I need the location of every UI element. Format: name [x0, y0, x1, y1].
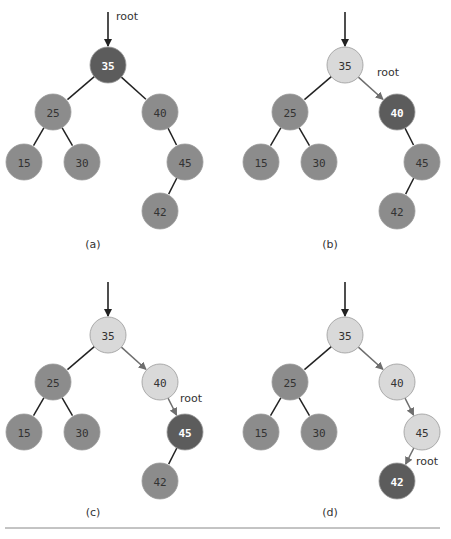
node-15: 15 — [6, 414, 42, 450]
node-15: 15 — [6, 144, 42, 180]
node-40: 40 — [142, 364, 178, 400]
node-35: 35 — [327, 47, 363, 83]
node-label: 42 — [390, 206, 403, 219]
node-40: 40 — [379, 364, 415, 400]
edge-25-30 — [62, 128, 72, 146]
edge-25-15 — [271, 128, 281, 146]
node-30: 30 — [64, 144, 100, 180]
node-label: 25 — [46, 107, 59, 120]
node-label: 25 — [283, 377, 296, 390]
node-45: 45 — [167, 144, 203, 180]
node-30: 30 — [64, 414, 100, 450]
node-label: 45 — [415, 157, 428, 170]
node-label: 15 — [17, 427, 30, 440]
node-35: 35 — [90, 47, 126, 83]
panel-caption: (b) — [322, 238, 338, 251]
edge-25-30 — [299, 398, 309, 416]
panel-caption: (d) — [322, 506, 338, 519]
node-label: 25 — [46, 377, 59, 390]
node-label: 40 — [153, 377, 166, 390]
node-15: 15 — [243, 414, 279, 450]
edge-25-15 — [34, 128, 44, 146]
node-label: 45 — [178, 157, 191, 170]
edge-40-45 — [405, 398, 413, 415]
edge-35-25 — [67, 347, 94, 370]
edge-45-42 — [169, 178, 177, 194]
edge-40-45 — [405, 128, 413, 145]
node-15: 15 — [243, 144, 279, 180]
panel-caption: (c) — [86, 506, 101, 519]
node-42: 42 — [142, 463, 178, 499]
edge-25-30 — [299, 128, 309, 146]
edge-40-45 — [168, 128, 176, 145]
node-label: 42 — [153, 476, 166, 489]
root-pointer-label: root — [116, 10, 139, 23]
edge-45-42 — [406, 178, 414, 194]
node-label: 30 — [312, 427, 325, 440]
edge-35-25 — [304, 347, 331, 370]
edge-35-40 — [121, 347, 146, 369]
root-pointer-label: root — [180, 392, 203, 405]
node-label: 30 — [75, 427, 88, 440]
node-label: 30 — [312, 157, 325, 170]
edge-35-40 — [358, 347, 383, 369]
node-42: 42 — [379, 463, 415, 499]
panel-c: 35254015304542root(c) — [6, 282, 203, 519]
node-label: 35 — [338, 60, 351, 73]
node-label: 45 — [178, 427, 191, 440]
root-pointer-label: root — [416, 455, 439, 468]
edge-35-25 — [304, 77, 331, 100]
node-label: 40 — [390, 107, 403, 120]
panel-a: 35254015304542root(a) — [6, 10, 203, 251]
node-label: 30 — [75, 157, 88, 170]
node-45: 45 — [404, 144, 440, 180]
node-label: 35 — [101, 330, 114, 343]
node-label: 40 — [390, 377, 403, 390]
panel-caption: (a) — [85, 238, 100, 251]
bst-diagram: 35254015304542root(a)35254015304542root(… — [0, 0, 451, 539]
edge-45-42 — [169, 448, 177, 464]
node-30: 30 — [301, 414, 337, 450]
node-40: 40 — [379, 94, 415, 130]
node-label: 42 — [390, 476, 403, 489]
node-label: 15 — [254, 427, 267, 440]
node-25: 25 — [35, 94, 71, 130]
node-42: 42 — [379, 193, 415, 229]
node-42: 42 — [142, 193, 178, 229]
node-45: 45 — [167, 414, 203, 450]
node-label: 35 — [101, 60, 114, 73]
edge-35-40 — [121, 77, 146, 99]
edge-35-25 — [67, 77, 94, 100]
node-35: 35 — [327, 317, 363, 353]
root-pointer-label: root — [377, 66, 400, 79]
edge-40-45 — [168, 398, 176, 415]
node-45: 45 — [404, 414, 440, 450]
node-label: 35 — [338, 330, 351, 343]
node-30: 30 — [301, 144, 337, 180]
edge-35-40 — [358, 77, 383, 99]
panel-d: 35254015304542root(d) — [243, 282, 440, 519]
node-35: 35 — [90, 317, 126, 353]
node-25: 25 — [35, 364, 71, 400]
node-25: 25 — [272, 364, 308, 400]
edge-45-42 — [406, 448, 414, 464]
edge-25-30 — [62, 398, 72, 416]
node-label: 15 — [254, 157, 267, 170]
node-label: 45 — [415, 427, 428, 440]
node-label: 15 — [17, 157, 30, 170]
panel-b: 35254015304542root(b) — [243, 12, 440, 251]
node-label: 40 — [153, 107, 166, 120]
edge-25-15 — [271, 398, 281, 416]
node-40: 40 — [142, 94, 178, 130]
node-label: 25 — [283, 107, 296, 120]
edge-25-15 — [34, 398, 44, 416]
node-25: 25 — [272, 94, 308, 130]
node-label: 42 — [153, 206, 166, 219]
